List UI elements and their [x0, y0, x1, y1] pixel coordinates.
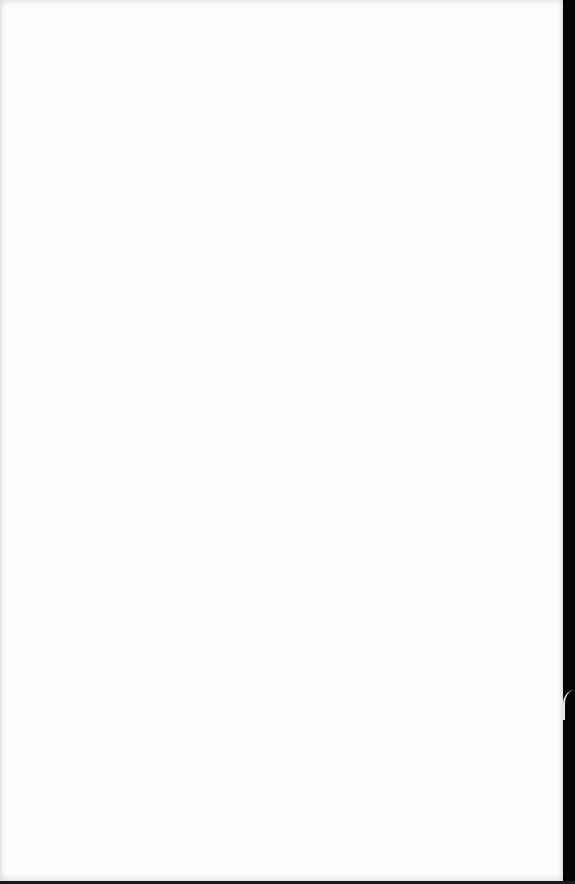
book-spine-edge	[563, 0, 575, 884]
blank-page	[0, 0, 563, 881]
page-curl	[563, 690, 575, 720]
